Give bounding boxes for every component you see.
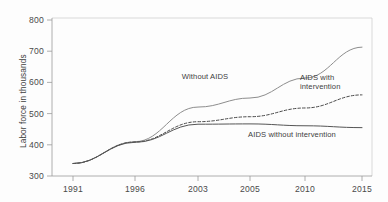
y-tick-label-500: 500 — [29, 109, 44, 119]
plot-frame — [52, 18, 372, 176]
x-tick-label-1996: 1996 — [125, 184, 145, 194]
x-tick-label-1991: 1991 — [63, 184, 83, 194]
y-tick-label-700: 700 — [29, 46, 44, 56]
chart-figure: 800 700 600 500 400 300 1991 1996 2003 2… — [0, 0, 388, 202]
y-tick-label-400: 400 — [29, 140, 44, 150]
line-chart: 800 700 600 500 400 300 1991 1996 2003 2… — [0, 0, 388, 202]
y-tick-label-800: 800 — [29, 15, 44, 25]
x-tick-label-2003: 2003 — [188, 184, 208, 194]
x-tick-label-2005: 2005 — [240, 184, 260, 194]
annotation-aids-with-intervention-line2: intervention — [300, 82, 340, 91]
y-tick-label-300: 300 — [29, 171, 44, 181]
annotation-aids-with-intervention-line1: AIDS with — [300, 73, 334, 82]
annotation-aids-without-intervention: AIDS without intervention — [248, 130, 336, 139]
annotation-without-aids: Without AIDS — [182, 72, 228, 81]
x-tick-label-2015: 2015 — [352, 184, 372, 194]
x-tick-label-2010: 2010 — [295, 184, 315, 194]
y-axis-title: Labor force in thousands — [19, 54, 28, 148]
y-tick-label-600: 600 — [29, 77, 44, 87]
